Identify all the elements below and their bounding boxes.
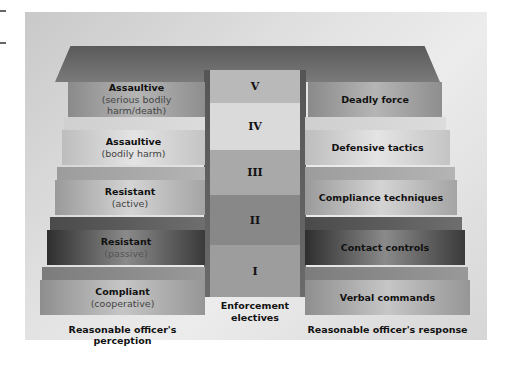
perception-title: Assaultive: [106, 136, 162, 147]
numeral-label: III: [247, 166, 262, 179]
step-top-face: [305, 267, 468, 280]
perception-step-4: Assaultive (bodily harm): [62, 130, 205, 165]
level-2-numeral: II: [210, 195, 300, 245]
perception-step-3: Resistant (active): [55, 180, 205, 215]
level-4-numeral: IV: [210, 103, 300, 150]
perception-subtitle: (active): [112, 198, 148, 209]
response-step-3: Compliance techniques: [305, 180, 457, 215]
response-label: Verbal commands: [340, 292, 435, 303]
perception-subtitle: (cooperative): [91, 298, 155, 309]
perception-subtitle: (serious bodily harm/death): [92, 94, 182, 117]
response-label: Contact controls: [341, 242, 429, 253]
step-top-face: [57, 167, 205, 180]
numeral-label: V: [251, 80, 260, 93]
numeral-label: II: [250, 214, 260, 227]
response-label: Compliance techniques: [319, 192, 443, 203]
perception-step-2: Resistant (passive): [47, 230, 205, 265]
level-1-numeral: I: [210, 245, 300, 297]
perception-title: Assaultive: [109, 82, 165, 93]
response-step-5: Deadly force: [308, 82, 442, 117]
response-label: Deadly force: [341, 94, 409, 105]
center-caption: Enforcement electives: [212, 300, 298, 324]
numeral-label: IV: [248, 120, 262, 133]
step-top-face: [305, 217, 462, 230]
response-caption: Reasonable officer's response: [305, 324, 470, 335]
perception-caption: Reasonable officer's perception: [40, 324, 205, 346]
level-5-numeral: V: [210, 70, 300, 103]
perception-step-1: Compliant (cooperative): [40, 280, 205, 315]
response-step-1: Verbal commands: [305, 280, 470, 315]
level-3-numeral: III: [210, 150, 300, 195]
step-top-face: [305, 117, 446, 130]
perception-title: Resistant: [105, 186, 156, 197]
perception-title: Compliant: [95, 286, 149, 297]
step-top-face: [42, 267, 205, 280]
page-edge-mark: [0, 42, 6, 44]
step-top-face: [50, 217, 205, 230]
numeral-label: I: [252, 265, 257, 278]
step-top-face: [64, 117, 205, 130]
perception-subtitle: (bodily harm): [101, 148, 165, 159]
perception-title: Resistant: [101, 236, 152, 247]
page-edge-mark: [0, 10, 6, 12]
response-label: Defensive tactics: [331, 142, 423, 153]
step-top-face: [305, 167, 455, 180]
response-step-4: Defensive tactics: [305, 130, 450, 165]
response-step-2: Contact controls: [305, 230, 465, 265]
perception-subtitle: (passive): [104, 248, 147, 259]
perception-step-5: Assaultive (serious bodily harm/death): [68, 82, 205, 117]
